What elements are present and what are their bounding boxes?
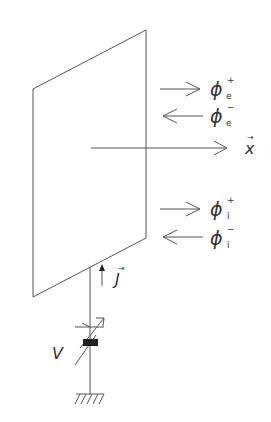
- label-current-j: J →: [115, 272, 120, 288]
- label-phi-e-plus: ϕ + e: [210, 80, 223, 99]
- label-x-axis: x →: [245, 141, 254, 157]
- arrow-phi-i-plus: [160, 202, 200, 216]
- diagram-canvas: [0, 0, 271, 422]
- arrow-x-axis: [91, 141, 227, 155]
- arrow-phi-i-minus: [163, 230, 203, 244]
- membrane-plane: [33, 30, 146, 297]
- label-voltage-v: V: [52, 346, 63, 362]
- arrow-current-j: [99, 264, 105, 286]
- label-phi-e-minus: ϕ − e: [210, 107, 223, 126]
- ground-symbol: [75, 394, 104, 404]
- label-phi-i-minus: ϕ − i: [210, 229, 223, 248]
- arrow-phi-e-minus: [163, 109, 203, 123]
- label-phi-i-plus: ϕ + i: [210, 200, 223, 219]
- arrow-phi-e-plus: [160, 82, 200, 96]
- battery-block: [83, 339, 98, 346]
